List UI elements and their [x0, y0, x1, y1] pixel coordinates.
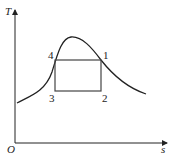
point-1-label: 1	[103, 49, 109, 61]
origin-label: O	[7, 143, 15, 155]
point-3-label: 3	[49, 92, 55, 104]
ts-diagram-canvas: T s O 4 1 3 2	[0, 0, 174, 166]
y-axis-label: T	[5, 5, 12, 17]
point-4-label: 4	[48, 49, 54, 61]
cycle-rectangle	[55, 60, 101, 91]
point-2-label: 2	[102, 92, 108, 104]
saturation-curve	[17, 37, 146, 103]
ts-diagram: T s O 4 1 3 2	[0, 0, 174, 166]
x-axis-label: s	[161, 143, 165, 155]
